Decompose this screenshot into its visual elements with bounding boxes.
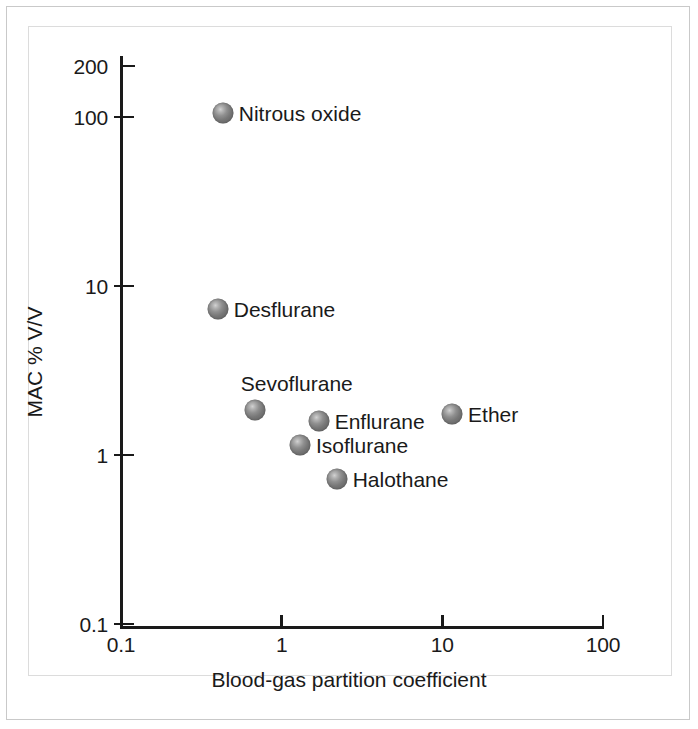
y-axis-tick (114, 285, 134, 288)
y-axis-tick-label: 10 (40, 276, 108, 297)
scatter-plot-area: 0.1110100200 0.1110100 Nitrous oxideDesf… (0, 0, 698, 729)
y-axis-tick-label: 100 (40, 107, 108, 128)
data-point-label: Isoflurane (316, 434, 408, 455)
y-axis-line (120, 56, 123, 628)
x-axis-tick-label: 1 (276, 634, 287, 655)
y-axis-tick-label: 1 (40, 445, 108, 466)
x-axis-tick (280, 615, 283, 627)
y-axis-tick (114, 454, 134, 457)
y-axis-tick (121, 65, 135, 68)
data-point-label: Desflurane (234, 299, 336, 320)
data-point-marker[interactable] (244, 399, 265, 420)
data-point-marker[interactable] (207, 299, 228, 320)
x-axis-tick (602, 615, 605, 627)
data-point-marker[interactable] (289, 434, 310, 455)
y-axis-tick (114, 116, 134, 119)
y-axis-title: MAC % V/V (23, 262, 47, 462)
data-point-label: Ether (468, 403, 518, 424)
data-point-label: Nitrous oxide (239, 103, 362, 124)
data-point-label: Sevoflurane (241, 372, 353, 393)
data-point-label: Enflurane (335, 410, 425, 431)
x-axis-tick-label: 0.1 (107, 634, 136, 655)
data-point-marker[interactable] (326, 469, 347, 490)
data-point-marker[interactable] (212, 103, 233, 124)
x-axis-tick-label: 100 (586, 634, 620, 655)
data-point-marker[interactable] (308, 410, 329, 431)
y-axis-tick (114, 623, 134, 626)
figure-root: 0.1110100200 0.1110100 Nitrous oxideDesf… (0, 0, 698, 729)
x-axis-title: Blood-gas partition coefficient (0, 668, 698, 692)
x-axis-tick (441, 615, 444, 627)
x-axis-line (120, 626, 604, 629)
data-point-marker[interactable] (442, 403, 463, 424)
data-point-label: Halothane (353, 469, 449, 490)
y-axis-tick-label: 200 (40, 56, 108, 77)
y-axis-tick-label: 0.1 (40, 614, 108, 635)
x-axis-tick-label: 10 (431, 634, 454, 655)
